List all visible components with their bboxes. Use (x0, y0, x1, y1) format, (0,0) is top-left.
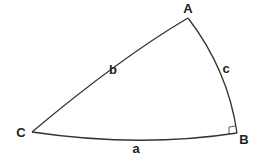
vertex-label-a: A (183, 1, 193, 16)
side-c-arc (188, 18, 237, 133)
vertex-label-b: B (239, 132, 248, 147)
diagram-svg: A B C a b c (0, 0, 258, 157)
side-label-b: b (109, 62, 117, 77)
vertex-label-c: C (16, 125, 26, 140)
spherical-triangle-diagram: A B C a b c (0, 0, 258, 157)
side-label-a: a (132, 141, 140, 156)
side-label-c: c (222, 61, 229, 76)
side-a-arc (32, 132, 237, 140)
